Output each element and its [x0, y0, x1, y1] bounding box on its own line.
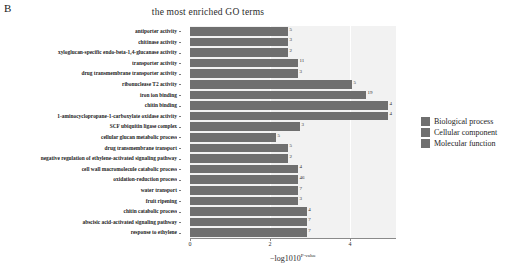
bar-row[interactable]: 2: [190, 48, 396, 56]
bar-row[interactable]: 5: [190, 27, 396, 35]
bar[interactable]: [190, 38, 288, 46]
y-axis-tick-mark: [179, 63, 181, 64]
x-axis-label: −log1010P-value: [190, 253, 396, 263]
bar-row[interactable]: 7: [190, 228, 396, 236]
bar[interactable]: [190, 165, 298, 173]
bar-value-label: 2: [288, 154, 292, 159]
bar-value-label: 5: [352, 80, 356, 85]
bar[interactable]: [190, 27, 288, 35]
bar-value-label: 3: [298, 196, 302, 201]
y-axis-tick-label: chitin catabolic process: [123, 208, 177, 215]
bar-value-label: 4: [388, 101, 392, 106]
bar[interactable]: [190, 69, 298, 77]
y-axis-tick-mark: [179, 95, 181, 96]
bar-value-label: 5: [276, 133, 280, 138]
bar[interactable]: [190, 207, 307, 215]
bar-value-label: 11: [298, 58, 304, 63]
chart-title: the most enriched GO terms: [0, 7, 416, 17]
y-axis-tick-mark: [179, 201, 181, 202]
bar-value-label: 2: [288, 48, 292, 53]
bar-row[interactable]: 5: [190, 80, 396, 88]
bar-row[interactable]: 3: [190, 38, 396, 46]
y-axis-tick-label: oxidation-reduction process: [113, 176, 177, 183]
y-axis-tick-label: cell wall macromolecule catabolic proces…: [82, 165, 177, 172]
bar[interactable]: [190, 218, 307, 226]
y-axis-tick-mark: [179, 53, 181, 54]
bar-value-label: 5: [288, 27, 292, 32]
y-axis-tick-label: fruit ripening: [146, 197, 177, 204]
y-axis-tick-mark: [179, 84, 181, 85]
bar-row[interactable]: 19: [190, 91, 396, 99]
legend: Biological processCellular componentMole…: [421, 116, 497, 149]
y-axis-tick-mark: [179, 159, 181, 160]
y-axis-tick-label: drug transmembrane transporter activity: [81, 70, 177, 77]
bar-value-label: 7: [307, 217, 311, 222]
y-axis-tick-label: iron ion binding: [140, 91, 177, 98]
bar-row[interactable]: 3: [190, 197, 396, 205]
x-axis-label-text: −log10: [270, 254, 293, 263]
plot-container: GO terms antiporter activitychitinase ac…: [0, 24, 416, 242]
y-axis-tick-mark: [179, 222, 181, 223]
bar[interactable]: [190, 101, 388, 109]
y-axis-tick-label: SCF ubiquitin ligase complex: [110, 123, 177, 130]
y-axis-tick-mark: [179, 169, 181, 170]
bar[interactable]: [190, 91, 366, 99]
bar-value-label: 19: [366, 90, 373, 95]
legend-item[interactable]: Cellular component: [421, 127, 497, 138]
bar-value-label: 4: [388, 111, 392, 116]
bar-row[interactable]: 3: [190, 69, 396, 77]
legend-label: Biological process: [434, 117, 493, 126]
bar-row[interactable]: 4: [190, 101, 396, 109]
bar[interactable]: [190, 144, 288, 152]
bar[interactable]: [190, 59, 298, 67]
y-axis-tick-label: ribonuclease T2 activity: [122, 81, 177, 88]
bar-row[interactable]: 4: [190, 207, 396, 215]
y-axis-tick-label: drug transmembrane transport: [105, 144, 177, 151]
y-axis-tick-label: chitin binding: [145, 102, 177, 109]
legend-swatch: [421, 139, 430, 148]
y-axis-tick-label: abscisic acid-activated signaling pathwa…: [83, 218, 178, 225]
y-axis-tick-mark: [179, 233, 181, 234]
bar-value-label: 5: [288, 143, 292, 148]
legend-item[interactable]: Biological process: [421, 116, 497, 127]
bar[interactable]: [190, 80, 352, 88]
bar[interactable]: [190, 133, 276, 141]
bar-row[interactable]: 4: [190, 112, 396, 120]
bar[interactable]: [190, 228, 307, 236]
bar-value-label: 7: [298, 186, 302, 191]
bar[interactable]: [190, 112, 388, 120]
x-axis-tick-label: 4: [349, 241, 352, 247]
bar-row[interactable]: 2: [190, 154, 396, 162]
bar-row[interactable]: 5: [190, 144, 396, 152]
gridline: [350, 26, 351, 238]
bar[interactable]: [190, 186, 298, 194]
x-axis-tick-label: 2: [269, 241, 272, 247]
legend-swatch: [421, 117, 430, 126]
bar-row[interactable]: 7: [190, 186, 396, 194]
bar-value-label: 46: [298, 175, 305, 180]
bar-row[interactable]: 46: [190, 175, 396, 183]
bar-value-label: 3: [298, 69, 302, 74]
legend-label: Cellular component: [434, 128, 497, 137]
bar[interactable]: [190, 154, 288, 162]
y-axis-tick-mark: [179, 127, 181, 128]
legend-item[interactable]: Molecular function: [421, 138, 497, 149]
y-axis-tick-mark: [179, 74, 181, 75]
x-axis-label-superscript: P-value: [301, 253, 316, 258]
bar[interactable]: [190, 122, 300, 130]
x-axis-tick-label: 0: [189, 241, 192, 247]
plot-area: 53211351944355244673477: [190, 26, 396, 238]
bar-row[interactable]: 5: [190, 133, 396, 141]
y-axis-tick-label: negative regulation of ethylene-activate…: [41, 155, 177, 162]
bar-row[interactable]: 11: [190, 59, 396, 67]
y-axis-tick-mark: [179, 116, 181, 117]
y-axis-tick-mark: [179, 148, 181, 149]
bar[interactable]: [190, 48, 288, 56]
gridline: [270, 26, 271, 238]
bar[interactable]: [190, 175, 298, 183]
bar-row[interactable]: 3: [190, 122, 396, 130]
y-axis-tick-mark: [179, 137, 181, 138]
bar[interactable]: [190, 197, 298, 205]
bar-row[interactable]: 4: [190, 165, 396, 173]
bar-row[interactable]: 7: [190, 218, 396, 226]
